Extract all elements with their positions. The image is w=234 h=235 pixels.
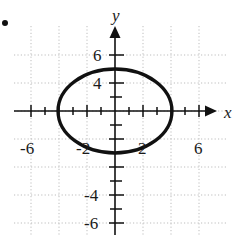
y-tick-label-neg4: -4 — [84, 187, 98, 204]
y-tick-label-4: 4 — [93, 75, 102, 92]
y-axis-ticks — [109, 55, 124, 223]
x-tick-label-2: 2 — [138, 140, 147, 157]
y-tick-label-6: 6 — [93, 47, 102, 64]
coordinate-plane-plot — [0, 0, 234, 235]
x-axis-label: x — [224, 104, 232, 121]
figure-container: y x 6 4 -4 -6 -6 -2 2 6 — [0, 0, 234, 235]
x-tick-label-neg6: -6 — [20, 140, 34, 157]
grid-lines — [14, 26, 226, 235]
y-tick-label-neg6: -6 — [84, 215, 98, 232]
x-tick-label-6: 6 — [194, 140, 203, 157]
x-tick-label-neg2: -2 — [76, 140, 90, 157]
y-axis-label: y — [112, 7, 120, 24]
y-axis — [110, 26, 121, 235]
